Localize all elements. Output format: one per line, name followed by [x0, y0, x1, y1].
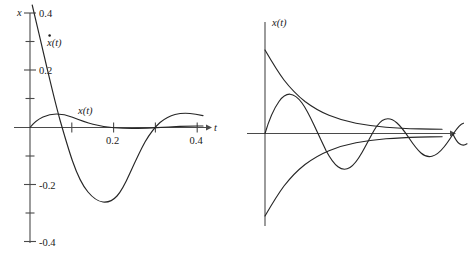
figure-container: 0.4 0.2 -0.2 -0.4 0.2 0.4 x t x(t) x(t)	[0, 0, 468, 254]
left-plot-svg: 0.4 0.2 -0.2 -0.4 0.2 0.4 x t x(t) x(t)	[0, 0, 234, 254]
right-plot-svg: x(t)	[234, 0, 468, 254]
xdot-overdot-icon	[48, 34, 51, 37]
left-plot-ytick-label-0.4: 0.4	[39, 8, 53, 19]
right-plot-lower-envelope	[265, 137, 442, 216]
left-plot-x-axis-label: t	[214, 122, 218, 133]
left-plot-curve-label-xdot: x(t)	[46, 34, 62, 49]
right-plot: x(t)	[234, 0, 468, 254]
left-plot-curve-label-xdot-text: x(t)	[46, 37, 62, 49]
left-plot-curve-label-x: x(t)	[77, 105, 93, 117]
left-plot-ytick-label-neg0.4: -0.4	[39, 237, 56, 248]
left-plot-x-axis-arrowhead	[206, 125, 212, 131]
right-plot-upper-envelope	[265, 50, 442, 129]
left-plot-ytick-label-neg0.2: -0.2	[39, 180, 56, 191]
right-plot-oscillation-curve	[265, 94, 464, 169]
left-plot-xtick-label-0.2: 0.2	[106, 135, 119, 146]
left-plot: 0.4 0.2 -0.2 -0.4 0.2 0.4 x t x(t) x(t)	[0, 0, 234, 254]
left-plot-curve-xdot	[32, 5, 203, 202]
left-plot-curve-x	[30, 114, 203, 128]
right-plot-oscillation-tail	[453, 134, 467, 145]
left-plot-ytick-label-0.2: 0.2	[39, 65, 52, 76]
left-plot-y-axis-label: x	[16, 7, 22, 18]
right-plot-y-axis-label: x(t)	[271, 17, 287, 29]
left-plot-xtick-label-0.4: 0.4	[190, 135, 204, 146]
